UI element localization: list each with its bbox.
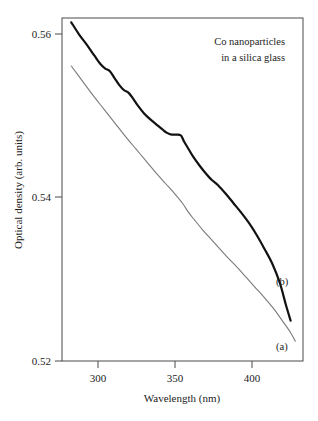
curve-series-b bbox=[71, 22, 290, 320]
sample-annotation-line2: in a silica glass bbox=[221, 52, 285, 63]
figure-container: 0.56 0.54 0.52 300 350 400 Wavelength (n… bbox=[0, 0, 318, 421]
y-tick-label-054: 0.54 bbox=[32, 191, 52, 203]
sample-annotation-line1: Co nanoparticles bbox=[214, 36, 285, 47]
optical-density-chart: 0.56 0.54 0.52 300 350 400 Wavelength (n… bbox=[0, 0, 318, 421]
x-tick-label-400: 400 bbox=[244, 372, 261, 384]
y-axis-title: Optical density (arb. units) bbox=[12, 131, 25, 249]
x-axis-title: Wavelength (nm) bbox=[144, 392, 221, 405]
plot-frame bbox=[62, 18, 303, 361]
curve-label-b: (b) bbox=[276, 276, 289, 288]
y-axis-ticks bbox=[55, 34, 62, 361]
x-tick-label-300: 300 bbox=[90, 372, 107, 384]
x-tick-label-350: 350 bbox=[167, 372, 184, 384]
curve-label-a: (a) bbox=[276, 341, 288, 353]
x-axis-ticks bbox=[98, 361, 252, 368]
y-tick-label-056: 0.56 bbox=[32, 28, 52, 40]
y-tick-label-052: 0.52 bbox=[32, 355, 51, 367]
curve-series-a bbox=[71, 66, 295, 341]
